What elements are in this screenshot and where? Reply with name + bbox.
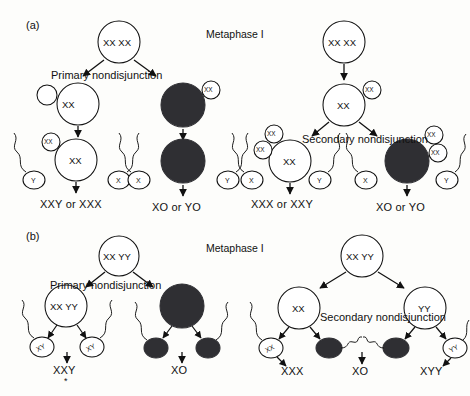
- cell-b1-label: XX YY: [50, 302, 78, 312]
- panel-b-secondary-event-label: Secondary nondisjunction: [320, 311, 404, 324]
- outcome-a-left: XXY or XXX: [40, 199, 102, 210]
- outcome-a-right-left: XXX or XXY: [251, 199, 313, 210]
- ovum-a3-label: XX: [283, 157, 296, 167]
- outcome-b-right-center: XO: [352, 366, 368, 377]
- outcome-b-right-right: XYY: [420, 366, 443, 377]
- outcome-b-center: XO: [171, 365, 187, 376]
- sperm-b-null1: [144, 338, 168, 358]
- polar-body-a4b-label: XX: [431, 150, 440, 156]
- sperm-a-Y-label: Y: [31, 177, 36, 184]
- cell-b2: [160, 284, 204, 328]
- cell-b-left-parent-label: XX YY: [103, 252, 131, 262]
- outcome-b-left: XXY: [53, 365, 76, 376]
- cell-b-right-parent-label: XX YY: [346, 252, 374, 262]
- polar-body-a3a-label: XX: [256, 147, 265, 153]
- outcome-b-left-mark: *: [64, 377, 68, 386]
- outcome-a-right: XO or YO: [152, 202, 201, 213]
- outcome-b-right-left: XXX: [281, 366, 304, 377]
- sperm-b-null2: [196, 338, 220, 358]
- outcome-a-right-right: XO or YO: [376, 202, 425, 213]
- polar-body-a-right-int-label: XX: [365, 87, 374, 93]
- panel-a-secondary-event-label: Secondary nondisjunction: [302, 133, 386, 146]
- polar-body-a1: [37, 85, 57, 105]
- ovum-a2b: [161, 139, 205, 183]
- figure-canvas: (a) Metaphase I Primary nondisjunction S…: [0, 0, 470, 396]
- panel-a-tag: (a): [26, 20, 39, 31]
- polar-body-a4a-label: XX: [427, 132, 436, 138]
- ovum-a2: [161, 83, 205, 127]
- polar-body-a2-label: XX: [204, 87, 213, 93]
- polar-body-a1b-label: XX: [44, 139, 53, 145]
- sperm-a-Y2-label: Y: [225, 177, 230, 184]
- ovum-a1b-label: XX: [69, 156, 82, 166]
- sperm-a-X4-label: X: [363, 177, 368, 184]
- panel-b-phase-label: Metaphase I: [206, 243, 264, 254]
- sperm-a-X3-label: X: [249, 177, 254, 184]
- polar-body-a3b-label: XX: [267, 131, 276, 137]
- sperm-a-X2-label: X: [136, 177, 141, 184]
- sperm-b-null3: [316, 338, 342, 358]
- panel-a-primary-event-label: Primary nondisjunction: [51, 70, 162, 81]
- ovum-a1-label: XX: [62, 100, 75, 110]
- ovum-a4: [385, 139, 429, 183]
- sperm-a-Y4-label: Y: [444, 177, 449, 184]
- sperm-a-Y3-label: Y: [317, 177, 322, 184]
- cell-a-right-intermediate-label: XX: [337, 101, 350, 111]
- cell-b3-label: XX: [292, 304, 305, 314]
- sperm-b-null4: [383, 338, 409, 358]
- cell-b4-label: YY: [418, 304, 431, 314]
- panel-b-primary-event-label: Primary nondisjunction: [50, 280, 161, 291]
- cell-a-right-parent-label: XX XX: [328, 38, 356, 48]
- panel-a-phase-label: Metaphase I: [206, 29, 264, 40]
- cell-a-left-parent-label: XX XX: [103, 38, 131, 48]
- sperm-a-X-label: X: [116, 177, 121, 184]
- panel-b-tag: (b): [26, 231, 39, 242]
